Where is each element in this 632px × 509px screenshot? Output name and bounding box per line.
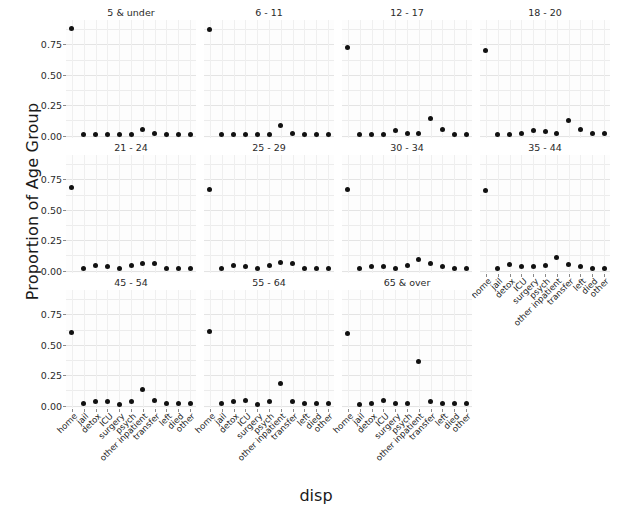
gridline-vertical — [84, 290, 85, 408]
gridline-vertical — [293, 20, 294, 138]
data-point — [416, 257, 421, 262]
facet-panel: 65 & overhomejaildetoxICUsurgerypsychoth… — [342, 276, 472, 411]
data-point — [129, 399, 134, 404]
gridline-vertical — [521, 20, 522, 138]
gridline-vertical — [131, 20, 132, 138]
data-point — [507, 262, 512, 267]
gridline-vertical — [486, 155, 487, 273]
x-tick-mark — [190, 409, 191, 412]
gridline-vertical — [407, 290, 408, 408]
data-point — [602, 266, 607, 271]
x-tick-text: home — [55, 411, 79, 435]
data-point — [129, 263, 134, 268]
y-tick-label: 0.75 — [41, 39, 62, 50]
data-point — [207, 329, 212, 334]
data-point — [369, 401, 374, 406]
gridline-vertical — [96, 290, 97, 408]
gridline-vertical — [84, 155, 85, 273]
facet-panel: 55 - 64homejaildetoxICUsurgerypsychother… — [204, 276, 334, 411]
gridline-vertical — [281, 20, 282, 138]
gridline-vertical — [348, 290, 349, 408]
facet-title: 65 & over — [342, 276, 472, 290]
facet-panel: 21 - 240.000.250.500.75 — [66, 141, 196, 276]
data-point — [140, 387, 145, 392]
gridline-vertical — [348, 20, 349, 138]
data-point — [93, 132, 98, 137]
x-tick-mark — [72, 409, 73, 412]
gridline-vertical — [419, 20, 420, 138]
plot-area — [204, 290, 334, 408]
x-tick-mark — [234, 409, 235, 412]
gridline-vertical — [178, 20, 179, 138]
x-tick-mark — [466, 409, 467, 412]
data-point — [176, 266, 181, 271]
data-point — [543, 129, 548, 134]
gridline-vertical — [510, 155, 511, 273]
data-point — [554, 255, 559, 260]
y-tick-label: 0.25 — [41, 370, 62, 381]
data-point — [464, 266, 469, 271]
gridline-vertical — [580, 155, 581, 273]
gridline-vertical — [442, 290, 443, 408]
data-point — [302, 132, 307, 137]
data-point — [554, 131, 559, 136]
data-point — [219, 401, 224, 406]
facet-title: 25 - 29 — [204, 141, 334, 155]
gridline-vertical — [498, 155, 499, 273]
data-point — [381, 398, 386, 403]
x-tick-mark — [395, 409, 396, 412]
data-point — [152, 398, 157, 403]
data-point — [231, 399, 236, 404]
x-tick-mark — [442, 409, 443, 412]
facet-title: 35 - 44 — [480, 141, 610, 155]
gridline-vertical — [304, 20, 305, 138]
y-tick-mark — [63, 75, 66, 76]
data-point — [416, 131, 421, 136]
data-point — [81, 266, 86, 271]
data-point — [231, 263, 236, 268]
data-point — [464, 401, 469, 406]
data-point — [578, 264, 583, 269]
data-point — [345, 45, 350, 50]
gridline-vertical — [143, 155, 144, 273]
gridline-vertical — [72, 20, 73, 138]
data-point — [93, 263, 98, 268]
data-point — [314, 132, 319, 137]
gridline-vertical — [372, 290, 373, 408]
data-point — [164, 132, 169, 137]
x-tick-mark — [372, 409, 373, 412]
y-axis-ticks: 0.000.250.500.75 — [26, 290, 62, 408]
plot-area — [66, 20, 196, 138]
data-point — [393, 128, 398, 133]
gridline-vertical — [372, 20, 373, 138]
x-tick-mark — [155, 409, 156, 412]
data-point — [302, 266, 307, 271]
plot-area — [204, 20, 334, 138]
gridline-vertical — [166, 290, 167, 408]
y-tick-mark — [63, 240, 66, 241]
data-point — [81, 401, 86, 406]
gridline-vertical — [190, 155, 191, 273]
data-point — [440, 401, 445, 406]
gridline-vertical — [328, 20, 329, 138]
data-point — [519, 131, 524, 136]
facet-row: 5 & under0.000.250.500.756 - 1112 - 1718… — [66, 6, 624, 141]
y-tick-mark — [63, 406, 66, 407]
x-tick-mark — [407, 409, 408, 412]
gridline-vertical — [521, 155, 522, 273]
data-point — [105, 132, 110, 137]
gridline-vertical — [119, 20, 120, 138]
facet-title: 30 - 34 — [342, 141, 472, 155]
data-point — [188, 401, 193, 406]
gridline-vertical — [486, 20, 487, 138]
data-point — [393, 401, 398, 406]
data-point — [69, 26, 74, 31]
data-point — [140, 261, 145, 266]
x-tick-mark — [419, 409, 420, 412]
gridline-vertical — [372, 155, 373, 273]
x-tick-mark — [131, 409, 132, 412]
gridline-vertical — [293, 155, 294, 273]
gridline-vertical — [155, 155, 156, 273]
gridline-vertical — [222, 20, 223, 138]
gridline-vertical — [131, 155, 132, 273]
